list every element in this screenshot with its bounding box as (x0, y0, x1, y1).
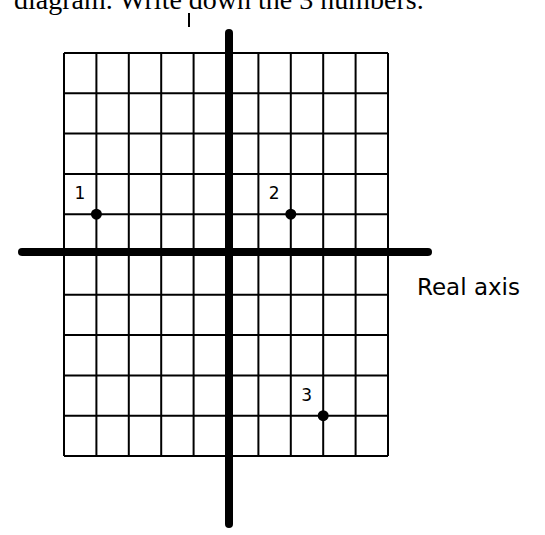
point-label-3: 3 (301, 386, 312, 404)
point-label-2: 2 (269, 184, 280, 202)
points (91, 209, 329, 422)
point-marker-3 (318, 410, 329, 421)
argand-diagram (0, 0, 545, 535)
point-marker-1 (91, 209, 102, 220)
point-label-1: 1 (74, 184, 85, 202)
point-marker-2 (285, 209, 296, 220)
real-axis-label: Real axis (417, 273, 520, 301)
